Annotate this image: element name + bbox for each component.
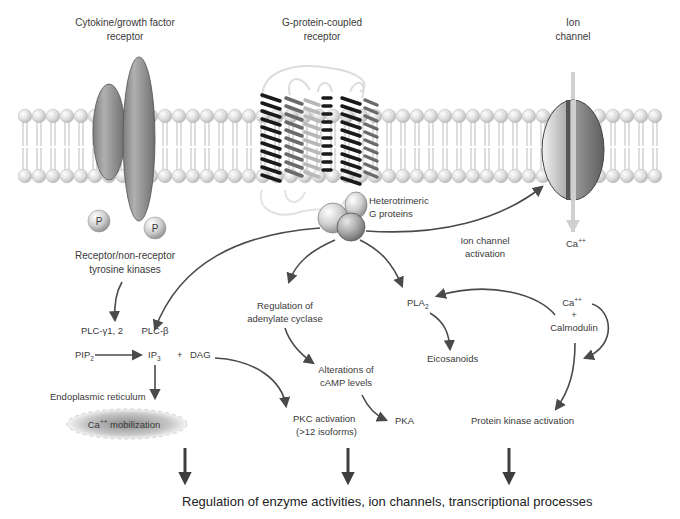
phosphate-label: P (96, 216, 103, 227)
tyrosine-kinases-label-1: Receptor/non-receptor (75, 250, 176, 261)
g-protein-trimer (318, 192, 367, 241)
camp-label-2: cAMP levels (320, 377, 372, 388)
ion-channel-label-1: Ion (566, 17, 580, 28)
cytokine-receptor-label-1: Cytokine/growth factor (75, 17, 175, 28)
plc-beta-label: PLC-β (141, 325, 169, 336)
adenylate-label-2: adenylate cyclase (247, 313, 323, 324)
phosphate-label: P (152, 223, 159, 234)
plus-sign: + (177, 349, 183, 360)
ion-channel-label-2: channel (555, 31, 590, 42)
ion-channel (542, 72, 604, 233)
dag-label: DAG (190, 349, 211, 360)
output-arrows (185, 448, 509, 480)
gpcr-label-2: receptor (304, 31, 341, 42)
cytokine-receptor-label-2: receptor (107, 31, 144, 42)
calmodulin-plus: + (571, 309, 577, 320)
adenylate-label-1: Regulation of (257, 300, 313, 311)
phosphate-group-left: P (88, 210, 110, 232)
bottom-outcome-label: Regulation of enzyme activities, ion cha… (182, 494, 593, 509)
ion-channel-activation-label-1: Ion channel (460, 235, 509, 246)
pip2-label: PIP2 (75, 349, 94, 362)
camp-label-1: Alterations of (318, 364, 374, 375)
plc-gamma-label: PLC-γ1, 2 (81, 325, 123, 336)
g-proteins-label-2: G proteins (369, 208, 413, 219)
calmodulin-label: Calmodulin (550, 322, 598, 333)
phosphate-group-right: P (144, 217, 166, 239)
pka-label: PKA (395, 415, 415, 426)
signal-transduction-diagram: P P Cytokine/growth factor receptor G (0, 0, 680, 519)
calcium-influx-label: Ca++ (566, 237, 586, 249)
pkc-label-2: (>12 isoforms) (296, 426, 357, 437)
ip3-label: IP3 (148, 349, 161, 362)
calmodulin-ca-label: Ca++ (562, 296, 582, 308)
protein-kinase-label: Protein kinase activation (471, 415, 574, 426)
calcium-influx-arrow (566, 220, 580, 233)
eicosanoids-label: Eicosanoids (427, 353, 478, 364)
g-proteins-label-1: Heterotrimeric (369, 195, 429, 206)
pla2-label: PLA2 (407, 297, 429, 310)
er-label: Endoplasmic reticulum (50, 391, 146, 402)
ion-channel-activation-label-2: activation (465, 248, 505, 259)
pkc-label-1: PKC activation (293, 413, 355, 424)
gpcr-label-1: G-protein-coupled (282, 17, 362, 28)
tyrosine-kinases-label-2: tyrosine kinases (89, 264, 161, 275)
cytokine-receptor: P P (88, 57, 166, 239)
ca-mobilization-label: Ca++ mobilization (88, 418, 161, 430)
